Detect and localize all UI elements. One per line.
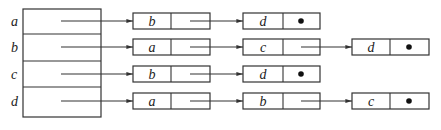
header-label-c: c xyxy=(11,67,18,82)
node-value: b xyxy=(149,67,156,82)
node-value: b xyxy=(149,14,156,29)
adjacency-list-diagram: a b c d b d a c d b d xyxy=(0,0,441,130)
node-value: a xyxy=(149,94,156,109)
list-node xyxy=(243,66,320,82)
header-label-a: a xyxy=(11,14,18,29)
list-row-b: a c d xyxy=(61,39,429,55)
node-value: c xyxy=(260,40,267,55)
header-label-d: d xyxy=(11,94,19,109)
null-pointer-icon xyxy=(406,44,412,50)
header-label-b: b xyxy=(11,40,18,55)
null-pointer-icon xyxy=(406,98,412,104)
null-pointer-icon xyxy=(298,18,304,24)
node-value: d xyxy=(260,14,268,29)
node-value: b xyxy=(260,94,267,109)
list-node xyxy=(243,13,320,29)
null-pointer-icon xyxy=(298,71,304,77)
node-value: d xyxy=(368,40,376,55)
node-value: c xyxy=(368,94,375,109)
node-value: d xyxy=(260,67,268,82)
list-row-d: a b c xyxy=(61,93,429,109)
node-value: a xyxy=(149,40,156,55)
